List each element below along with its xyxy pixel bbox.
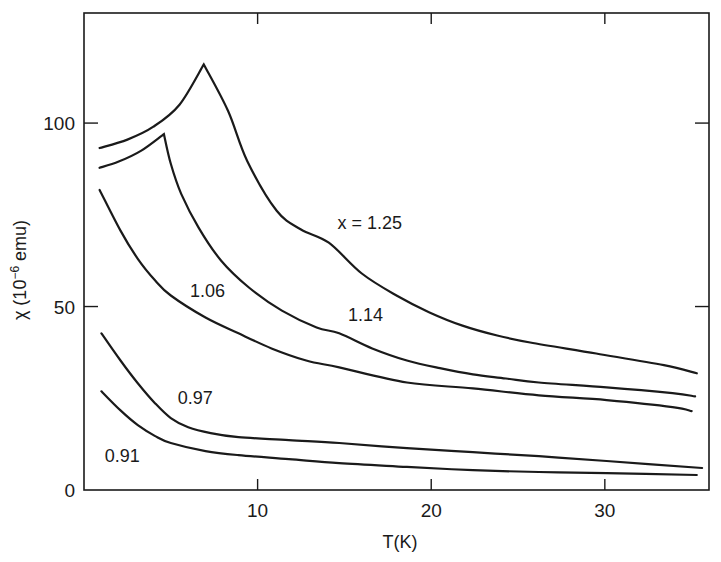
y-axis-title: χ (10−6 emu) xyxy=(8,220,30,320)
chart: 102030050100 x = 1.251.141.060.970.91 T(… xyxy=(0,0,721,562)
curves xyxy=(100,64,703,475)
x-axis-title: T(K) xyxy=(383,532,418,552)
y-tick-label: 50 xyxy=(54,297,75,318)
series-label-0-97: 0.97 xyxy=(178,388,213,408)
y-tick-label: 100 xyxy=(43,113,75,134)
series-label-x-1-25: x = 1.25 xyxy=(337,213,402,233)
y-tick-label: 0 xyxy=(64,480,75,501)
series-label-1-14: 1.14 xyxy=(348,305,383,325)
x-tick-label: 10 xyxy=(247,500,268,521)
y-axis-title-main: χ (10 xyxy=(10,280,30,320)
x-tick-label: 20 xyxy=(421,500,442,521)
x-tick-label: 30 xyxy=(594,500,615,521)
y-axis-title-exponent: −6 xyxy=(8,266,22,280)
series-label-1-06: 1.06 xyxy=(190,281,225,301)
plot-border xyxy=(84,13,709,490)
y-axis-title-unit: emu) xyxy=(10,220,30,266)
ticks xyxy=(84,13,709,490)
curve-x-1-14 xyxy=(100,134,696,396)
plot-frame xyxy=(84,13,709,490)
series-label-0-91: 0.91 xyxy=(105,446,140,466)
